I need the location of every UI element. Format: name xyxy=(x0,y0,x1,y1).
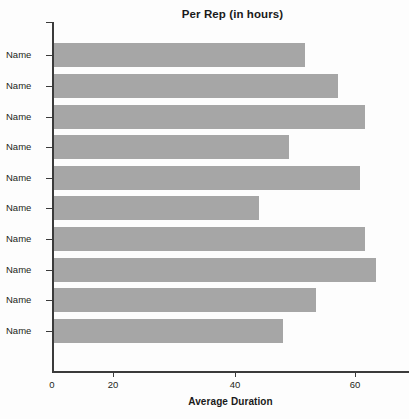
bar xyxy=(54,105,365,129)
category-label: Name xyxy=(6,233,50,244)
category-label: Name xyxy=(6,294,50,305)
bar-fill xyxy=(54,135,289,159)
x-axis-tick-label: 20 xyxy=(108,379,119,390)
category-label: Name xyxy=(6,141,50,152)
bar-fill xyxy=(54,74,338,98)
bar xyxy=(54,196,259,220)
bar xyxy=(54,288,316,312)
bar xyxy=(54,74,338,98)
category-label: Name xyxy=(6,325,50,336)
bar xyxy=(54,166,360,190)
x-axis-tick xyxy=(355,372,356,377)
x-axis-tick-label: 60 xyxy=(350,379,361,390)
category-label: Name xyxy=(6,202,50,213)
category-label: Name xyxy=(6,80,50,91)
category-label: Name xyxy=(6,111,50,122)
bar xyxy=(54,43,305,67)
bar-fill xyxy=(54,227,365,251)
bar xyxy=(54,319,283,343)
category-label: Name xyxy=(6,264,50,275)
bar-fill xyxy=(54,43,305,67)
x-axis-tick-label: 40 xyxy=(230,379,241,390)
bar-fill xyxy=(54,166,360,190)
category-label: Name xyxy=(6,49,50,60)
bar xyxy=(54,258,376,282)
x-axis-title: Average Duration xyxy=(52,396,409,407)
bar xyxy=(54,135,289,159)
bars-layer xyxy=(54,22,409,372)
x-axis-tick xyxy=(235,372,236,377)
bar-fill xyxy=(54,319,283,343)
y-axis-top-tick xyxy=(46,22,52,23)
x-axis-tick-label: 0 xyxy=(49,379,54,390)
plot-area: 0204060 xyxy=(52,22,409,372)
bar-fill xyxy=(54,258,376,282)
bar-chart: Per Rep (in hours) 0204060 NameNameNameN… xyxy=(0,0,409,419)
bar-fill xyxy=(54,288,316,312)
bar-fill xyxy=(54,196,259,220)
x-axis-tick xyxy=(113,372,114,377)
category-label: Name xyxy=(6,172,50,183)
bar-fill xyxy=(54,105,365,129)
bar xyxy=(54,227,365,251)
chart-title: Per Rep (in hours) xyxy=(0,8,409,20)
